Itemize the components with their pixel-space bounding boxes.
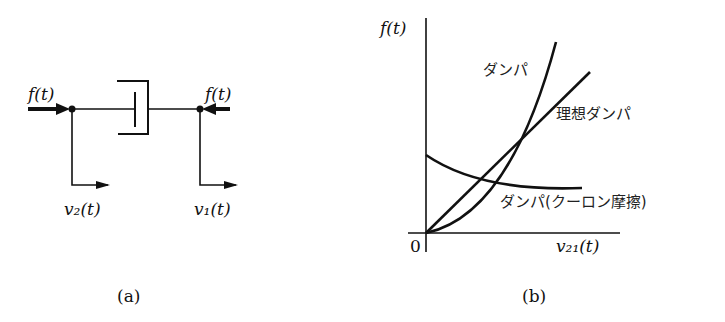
- caption-a: (a): [117, 288, 140, 305]
- damper-label: ダンパ: [483, 63, 528, 78]
- force-label-left: f(t): [28, 86, 54, 103]
- velocity-arrow-right: [200, 109, 236, 185]
- velocity-arrow-left: [72, 109, 108, 185]
- y-axis-label: f(t): [380, 20, 406, 37]
- ideal-damper-label: 理想ダンパ: [556, 107, 631, 122]
- damper-cylinder: [117, 81, 148, 134]
- characteristic-graph: [408, 18, 620, 252]
- diagram-canvas: [0, 0, 725, 322]
- coulomb-friction-label: ダンパ(クーロン摩擦): [500, 195, 647, 210]
- origin-label: 0: [410, 238, 421, 255]
- caption-b: (b): [522, 288, 546, 305]
- force-label-right: f(t): [205, 86, 231, 103]
- velocity-label-right: v₁(t): [194, 201, 231, 218]
- x-axis-label: v₂₁(t): [556, 238, 599, 255]
- velocity-label-left: v₂(t): [64, 201, 101, 218]
